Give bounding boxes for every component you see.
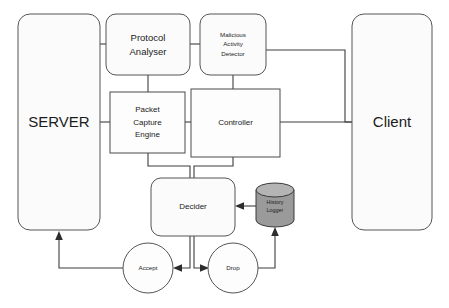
history-logger-label-line1: History (267, 199, 284, 205)
malicious-activity-detector-label-line3: Detector (221, 50, 244, 57)
client-label: Client (373, 113, 412, 130)
protocol-analyser-label-line2: Analyser (130, 46, 167, 57)
history-logger-label-line2: Logger (267, 207, 284, 213)
architecture-diagram: SERVER Protocol Analyser Malicious Activ… (0, 0, 449, 308)
node-accept[interactable]: Accept (123, 243, 173, 293)
node-protocol-analyser[interactable]: Protocol Analyser (106, 14, 190, 75)
node-packet-capture-engine[interactable]: Packet Capture Engine (110, 92, 185, 153)
node-server[interactable]: SERVER (18, 14, 100, 230)
packet-capture-engine-label-line3: Engine (135, 130, 160, 139)
drop-label: Drop (226, 264, 240, 271)
decider-label: Decider (179, 202, 207, 211)
edge-decider-to-accept (182, 236, 190, 268)
arrowhead-accept-to-server (55, 231, 63, 240)
packet-capture-engine-label-line2: Capture (133, 118, 162, 127)
controller-label: Controller (218, 118, 253, 127)
edge-controller-to-decider (194, 157, 233, 178)
malicious-activity-detector-label-line1: Malicious (220, 31, 246, 38)
protocol-analyser-label-line1: Protocol (131, 32, 166, 43)
node-malicious-activity-detector[interactable]: Malicious Activity Detector (200, 14, 266, 75)
packet-capture-engine-label-line1: Packet (135, 105, 160, 114)
node-decider[interactable]: Decider (151, 178, 235, 236)
diagram-canvas: SERVER Protocol Analyser Malicious Activ… (0, 0, 449, 308)
node-history-logger[interactable]: History Logger (256, 183, 294, 227)
history-logger-cylinder-top (256, 183, 294, 197)
node-drop[interactable]: Drop (208, 243, 258, 293)
server-label: SERVER (28, 113, 90, 130)
edge-packet-capture-engine-to-decider (148, 153, 190, 178)
edge-accept-to-server (59, 240, 123, 268)
edge-drop-to-history-logger (258, 236, 275, 268)
node-controller[interactable]: Controller (191, 89, 280, 157)
protocol-analyser-box[interactable] (106, 14, 190, 75)
node-client[interactable]: Client (352, 14, 432, 230)
arrowhead-decider-to-accept (173, 264, 182, 272)
malicious-activity-detector-label-line2: Activity (223, 40, 244, 47)
accept-label: Accept (139, 264, 158, 271)
arrowhead-drop-to-history-logger (271, 227, 279, 236)
edge-decider-to-drop (194, 236, 200, 268)
arrowhead-history-logger-to-decider (235, 202, 244, 210)
